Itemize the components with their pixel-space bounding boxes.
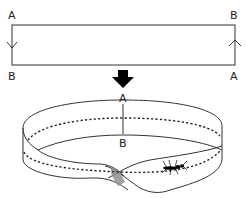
- label-band-top: A: [119, 92, 127, 105]
- label-top-right: B: [230, 9, 238, 22]
- label-bottom-right: A: [230, 70, 238, 83]
- label-band-bottom: B: [119, 137, 127, 150]
- mobius-diagram: A B B A A B: [0, 0, 246, 198]
- label-bottom-left: B: [8, 70, 16, 83]
- label-top-left: A: [8, 9, 16, 22]
- ant-icon: [162, 160, 187, 175]
- strip-rectangle: [12, 25, 235, 65]
- mobius-band: A B: [23, 92, 222, 192]
- arrow-down-icon: [112, 70, 134, 88]
